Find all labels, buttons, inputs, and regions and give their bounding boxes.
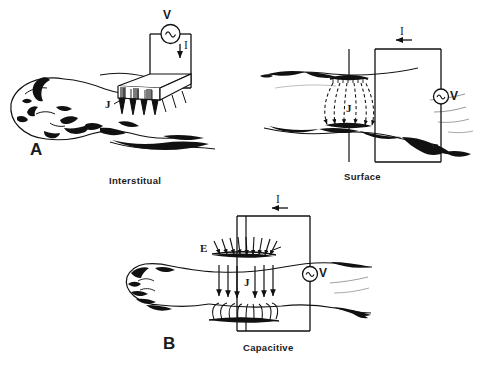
panel-surface-current-density-label: J (346, 103, 352, 114)
panel-b-current-density-label: J (244, 277, 250, 288)
panel-b-caption: Capacitive (243, 343, 294, 353)
panel-a-source-label: V (163, 9, 171, 21)
panel-surface-current-label: I (400, 26, 404, 38)
panel-a-current-density-label: J (105, 99, 111, 110)
panel-a-caption: Interstitual (109, 176, 161, 186)
panel-b-source-label: V (319, 267, 327, 279)
panel-a-letter: A (30, 141, 43, 158)
panel-surface-source-label: V (450, 90, 458, 102)
panel-b-artwork (126, 208, 372, 331)
panel-surface-caption: Surface (344, 172, 381, 182)
figure-canvas: V I J A Interstitual I V J Surface I V E… (0, 0, 492, 367)
panel-surface-artwork (260, 40, 473, 162)
figure-artwork (0, 0, 492, 367)
panel-b-letter: B (163, 335, 176, 352)
panel-b-field-label: E (200, 243, 207, 254)
panel-a-current-label: I (184, 40, 188, 52)
panel-b-current-label: I (276, 194, 280, 206)
